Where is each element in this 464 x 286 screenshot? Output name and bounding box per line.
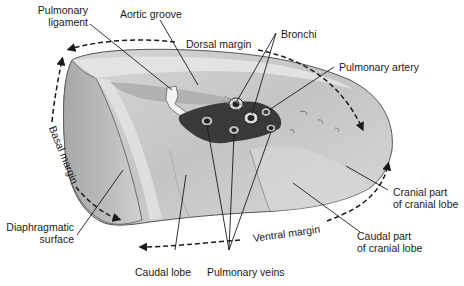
label-caudal-part-line2: of cranial lobe	[357, 242, 422, 254]
label-cranial-part: Cranial part of cranial lobe	[393, 186, 458, 210]
label-diaphragmatic-line1: Diaphragmatic	[4, 221, 74, 233]
label-bronchi: Bronchi	[281, 28, 317, 40]
label-cranial-part-line1: Cranial part	[393, 186, 458, 198]
label-diaphragmatic-line2: surface	[4, 233, 74, 245]
ventral-margin-arrow	[142, 240, 240, 247]
lung-diagram: Pulmonary ligament Aortic groove Dorsal …	[0, 0, 464, 286]
label-dorsal-margin: Dorsal margin	[186, 38, 251, 50]
label-pulmonary-ligament-line2: ligament	[36, 16, 88, 28]
label-pulmonary-veins: Pulmonary veins	[207, 266, 285, 278]
basal-margin-arrow	[52, 60, 62, 122]
dorsal-margin-arrow	[70, 40, 175, 49]
label-pulmonary-ligament-line1: Pulmonary	[36, 4, 88, 16]
label-pulmonary-artery: Pulmonary artery	[339, 61, 419, 73]
label-diaphragmatic-surface: Diaphragmatic surface	[4, 221, 74, 245]
label-aortic-groove: Aortic groove	[120, 8, 182, 20]
label-caudal-part-line1: Caudal part	[357, 230, 422, 242]
label-caudal-lobe: Caudal lobe	[135, 266, 191, 278]
label-pulmonary-ligament: Pulmonary ligament	[36, 4, 88, 28]
label-cranial-part-line2: of cranial lobe	[393, 198, 458, 210]
label-caudal-part: Caudal part of cranial lobe	[357, 230, 422, 254]
